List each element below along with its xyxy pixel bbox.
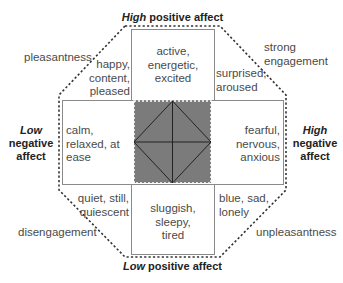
cell-right-line: anxious: [222, 151, 280, 165]
cell-top: active, energetic, excited: [132, 45, 214, 86]
cell-top-right: surprised, aroused: [216, 67, 267, 94]
cell-top-line: energetic,: [132, 59, 214, 73]
cell-left-line: relaxed, at: [66, 138, 120, 152]
cell-top-right-line: aroused: [216, 81, 267, 95]
axis-left-line2: negative: [6, 137, 56, 150]
axis-left-emph: Low: [20, 124, 42, 136]
cell-bottom-right-line: lonely: [219, 206, 269, 220]
cell-bottom-line: sleepy,: [132, 216, 214, 230]
axis-right-line3: affect: [289, 150, 341, 163]
label-strong: strong: [264, 41, 328, 55]
label-unpleasantness: unpleasantness: [256, 226, 337, 240]
label-disengagement: disengagement: [18, 226, 97, 240]
affect-diagram: High positive affect Low positive affect…: [0, 0, 343, 283]
cell-top-left-line: happy,: [80, 58, 130, 72]
cell-top-line: excited: [132, 72, 214, 86]
axis-bottom-label: Low positive affect: [110, 260, 235, 273]
axis-right-label: High negative affect: [289, 124, 341, 163]
cell-top-left-line: content,: [80, 72, 130, 86]
label-engagement: engagement: [264, 55, 328, 69]
cell-bottom-right-line: blue, sad,: [219, 192, 269, 206]
cell-right-line: nervous,: [222, 138, 280, 152]
cell-left-line: ease: [66, 151, 120, 165]
cell-bottom-right: blue, sad, lonely: [219, 192, 269, 219]
cell-left-line: calm,: [66, 124, 120, 138]
axis-top-label: High positive affect: [110, 11, 235, 24]
cell-bottom-left: quiet, still, quiescent: [70, 192, 129, 219]
cell-bottom-left-line: quiet, still,: [70, 192, 129, 206]
axis-left-label: Low negative affect: [6, 124, 56, 163]
cell-left: calm, relaxed, at ease: [66, 124, 120, 165]
axis-top-rest: positive affect: [146, 11, 223, 23]
cell-bottom-left-line: quiescent: [70, 206, 129, 220]
cell-bottom-line: tired: [132, 229, 214, 243]
cell-bottom-line: sluggish,: [132, 202, 214, 216]
cell-top-left-line: pleased: [80, 85, 130, 99]
axis-bottom-emph: Low: [123, 260, 145, 272]
axis-left-line3: affect: [6, 150, 56, 163]
cell-right-line: fearful,: [222, 124, 280, 138]
axis-right-line2: negative: [289, 137, 341, 150]
cell-top-left: happy, content, pleased: [80, 58, 130, 99]
label-strong-engagement: strong engagement: [264, 41, 328, 68]
axis-right-emph: High: [303, 124, 327, 136]
axis-bottom-rest: positive affect: [145, 260, 222, 272]
cell-bottom: sluggish, sleepy, tired: [132, 202, 214, 243]
cell-top-right-line: surprised,: [216, 67, 267, 81]
axis-top-emph: High: [122, 11, 146, 23]
cell-top-line: active,: [132, 45, 214, 59]
cell-right: fearful, nervous, anxious: [222, 124, 280, 165]
